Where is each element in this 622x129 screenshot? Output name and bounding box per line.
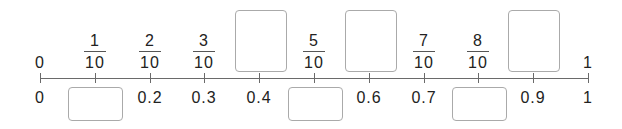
denominator: 10 <box>85 54 105 71</box>
fraction-bar <box>303 51 325 52</box>
denominator: 10 <box>140 54 160 71</box>
bottom-label-10: 1 <box>568 90 608 106</box>
tick-9 <box>533 73 534 83</box>
tick-3 <box>204 73 205 83</box>
bottom-label-7: 0.7 <box>404 90 444 106</box>
denominator: 10 <box>468 54 488 71</box>
numerator: 8 <box>473 32 483 49</box>
bottom-label-4: 0.4 <box>239 90 279 106</box>
tick-4 <box>259 73 260 83</box>
numerator: 2 <box>145 32 155 49</box>
denominator: 10 <box>194 54 214 71</box>
top-fraction-8: 8 10 <box>458 33 498 71</box>
top-label-10: 1 <box>568 55 608 71</box>
answer-box-bottom-8[interactable] <box>452 87 507 121</box>
answer-box-top-9[interactable] <box>508 10 560 72</box>
denominator: 10 <box>304 54 324 71</box>
tick-1 <box>95 73 96 83</box>
fraction-bar <box>139 51 161 52</box>
tick-6 <box>369 73 370 83</box>
bottom-label-6: 0.6 <box>349 90 389 106</box>
tick-5 <box>314 73 315 83</box>
answer-box-bottom-5[interactable] <box>288 87 343 121</box>
answer-box-top-4[interactable] <box>235 10 287 72</box>
top-fraction-1: 1 10 <box>75 33 115 71</box>
numerator: 3 <box>199 32 209 49</box>
top-fraction-3: 3 10 <box>184 33 224 71</box>
top-fraction-7: 7 10 <box>404 33 444 71</box>
numerator: 5 <box>309 32 319 49</box>
top-fraction-2: 2 10 <box>130 33 170 71</box>
top-fraction-5: 5 10 <box>294 33 334 71</box>
tick-7 <box>424 73 425 83</box>
fraction-bar <box>467 51 489 52</box>
numerator: 7 <box>419 32 429 49</box>
numerator: 1 <box>90 32 100 49</box>
answer-box-top-6[interactable] <box>345 10 397 72</box>
tick-10 <box>588 73 589 83</box>
answer-box-bottom-1[interactable] <box>68 87 123 121</box>
fraction-bar <box>84 51 106 52</box>
bottom-label-0: 0 <box>20 90 60 106</box>
fraction-bar <box>413 51 435 52</box>
tick-8 <box>478 73 479 83</box>
bottom-label-2: 0.2 <box>130 90 170 106</box>
tick-2 <box>150 73 151 83</box>
tick-0 <box>40 73 41 83</box>
bottom-label-3: 0.3 <box>184 90 224 106</box>
fraction-bar <box>193 51 215 52</box>
bottom-label-9: 0.9 <box>513 90 553 106</box>
denominator: 10 <box>414 54 434 71</box>
top-label-0: 0 <box>20 55 60 71</box>
